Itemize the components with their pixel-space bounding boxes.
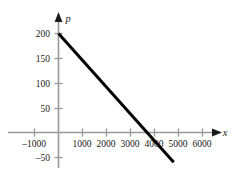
x-tick-label-5000: 5000 <box>169 139 188 149</box>
y-tick-label-150: 150 <box>36 54 51 64</box>
x-tick-label-6000: 6000 <box>193 139 212 149</box>
x-tick-label-3000: 3000 <box>121 139 140 149</box>
x-tick-label-neg1000: –1000 <box>21 139 46 149</box>
y-tick-label-200: 200 <box>36 29 51 39</box>
y-tick-label-50: 50 <box>41 104 51 114</box>
x-tick-label-2000: 2000 <box>97 139 116 149</box>
y-tick-label-100: 100 <box>36 79 51 89</box>
y-axis-label: p <box>64 13 70 24</box>
x-axis-label: x <box>222 127 228 138</box>
x-tick-label-1000: 1000 <box>73 139 92 149</box>
y-tick-label-neg50: –50 <box>35 153 51 163</box>
chart-container: x p –1000 1000 2000 3000 4000 5000 6000 <box>0 0 235 174</box>
coordinate-plot: x p –1000 1000 2000 3000 4000 5000 6000 <box>0 0 235 174</box>
